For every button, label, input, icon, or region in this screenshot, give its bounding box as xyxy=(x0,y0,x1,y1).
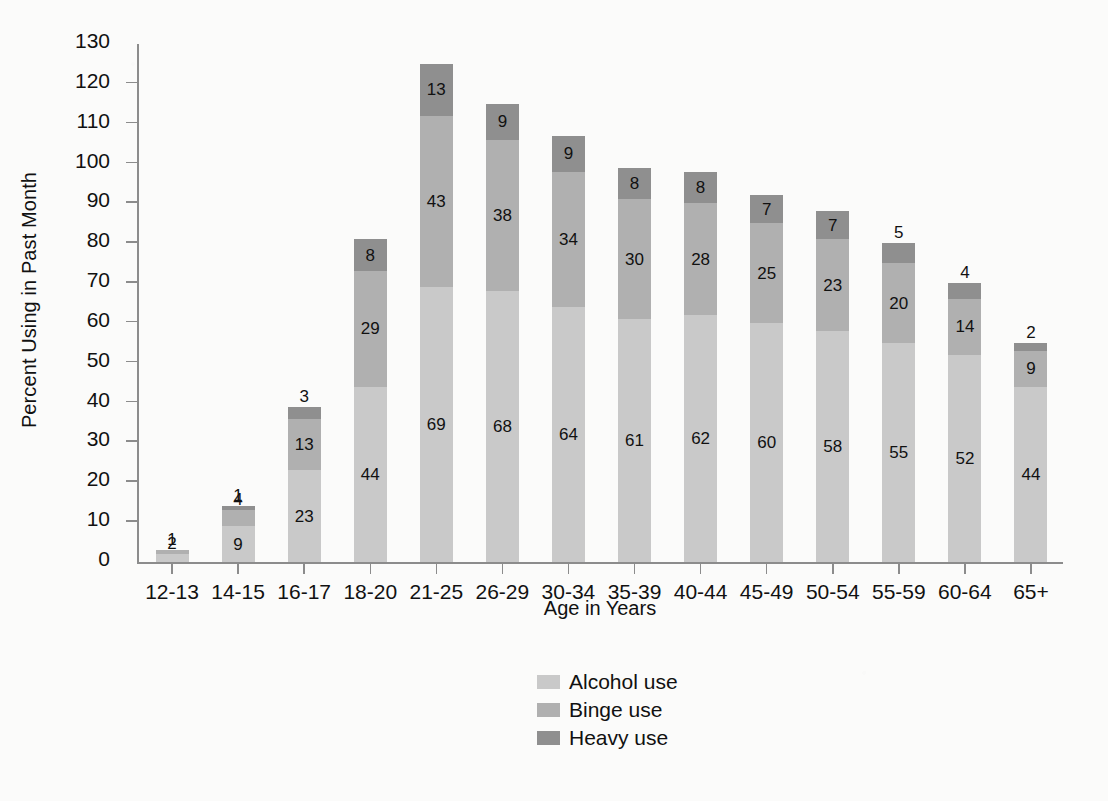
bar-segment[interactable]: 44 xyxy=(354,387,387,562)
bar-segment[interactable]: 7 xyxy=(816,211,849,239)
chart-canvas: Percent Using in Past Month 010203040506… xyxy=(0,0,1108,801)
stacked-bar[interactable]: 64349 xyxy=(552,136,585,562)
bar-segment-value-label: 69 xyxy=(427,416,446,433)
y-axis-tick: 90 xyxy=(11,201,137,203)
bar-segment[interactable]: 1 xyxy=(156,550,189,554)
bar-segment[interactable]: 20 xyxy=(882,263,915,343)
bar-segment-value-label: 13 xyxy=(295,436,314,453)
y-axis-tick-mark xyxy=(126,361,137,363)
bar-segment[interactable]: 28 xyxy=(684,203,717,315)
stacked-bar[interactable]: 58237 xyxy=(816,211,849,562)
bar-segment[interactable]: 60 xyxy=(750,323,783,562)
y-axis-tick-label: 20 xyxy=(87,467,110,491)
stacked-bar[interactable]: 68389 xyxy=(486,104,519,562)
bar-segment[interactable]: 58 xyxy=(816,331,849,562)
bar-segment[interactable]: 64 xyxy=(552,307,585,562)
legend-item[interactable]: Heavy use xyxy=(537,724,678,752)
bar-segment[interactable]: 61 xyxy=(618,319,651,562)
legend-item-label: Alcohol use xyxy=(569,670,678,694)
y-axis-line xyxy=(137,44,139,563)
bar-segment[interactable]: 44 xyxy=(1014,387,1047,562)
legend-item[interactable]: Binge use xyxy=(537,696,678,724)
y-axis-tick-label: 100 xyxy=(75,149,110,173)
y-axis-tick-mark xyxy=(126,281,137,283)
bar-segment[interactable]: 38 xyxy=(486,140,519,291)
bar-segment-value-label: 20 xyxy=(889,295,908,312)
y-axis-tick-mark xyxy=(126,440,137,442)
y-axis-tick: 130 xyxy=(11,42,137,44)
bar-segment-value-label: 61 xyxy=(625,432,644,449)
bar-segment[interactable]: 8 xyxy=(684,172,717,204)
bar-segment[interactable]: 14 xyxy=(948,299,981,355)
bar-segment[interactable]: 4 xyxy=(948,283,981,299)
bar-segment-value-label: 29 xyxy=(361,320,380,337)
bar-segment[interactable]: 29 xyxy=(354,271,387,387)
bar-segment-value-label: 62 xyxy=(691,430,710,447)
bar-segment-value-label: 60 xyxy=(757,434,776,451)
legend-swatch xyxy=(537,703,560,717)
bar-segment[interactable]: 7 xyxy=(750,195,783,223)
bar-segment[interactable]: 4 xyxy=(222,510,255,526)
bar-segment[interactable]: 43 xyxy=(420,116,453,287)
bar-segment[interactable]: 1 xyxy=(222,506,255,510)
bar-segment-value-label: 9 xyxy=(498,113,507,130)
bar-segment-value-label: 3 xyxy=(288,388,321,405)
bar-segment[interactable]: 69 xyxy=(420,287,453,562)
x-axis-title: Age in Years xyxy=(137,597,1063,620)
y-axis-tick: 120 xyxy=(11,82,137,84)
y-axis-tick-mark xyxy=(126,82,137,84)
bar-segment[interactable]: 52 xyxy=(948,355,981,562)
bar-segment[interactable]: 9 xyxy=(1014,351,1047,387)
bar-segment[interactable]: 55 xyxy=(882,343,915,562)
bar-segment[interactable]: 23 xyxy=(816,239,849,331)
stacked-bar[interactable]: 23133 xyxy=(288,407,321,562)
stacked-bar[interactable]: 55205 xyxy=(882,243,915,562)
x-axis-tick-mark xyxy=(898,563,900,574)
stacked-bar[interactable]: 60257 xyxy=(750,195,783,562)
stacked-bar[interactable]: 941 xyxy=(222,506,255,562)
y-axis-tick: 80 xyxy=(11,241,137,243)
bar-segment-value-label: 25 xyxy=(757,265,776,282)
bar-segment[interactable]: 3 xyxy=(288,407,321,419)
bar-segment[interactable]: 62 xyxy=(684,315,717,562)
stacked-bar[interactable]: 62288 xyxy=(684,172,717,562)
y-axis-tick-label: 50 xyxy=(87,348,110,372)
bar-segment[interactable]: 68 xyxy=(486,291,519,562)
bar-segment-value-label: 8 xyxy=(696,179,705,196)
bar-segment[interactable]: 25 xyxy=(750,223,783,323)
stacked-bar[interactable]: 61308 xyxy=(618,168,651,562)
y-axis-tick: 40 xyxy=(11,401,137,403)
stacked-bar[interactable]: 694313 xyxy=(420,64,453,562)
x-axis-tick-mark xyxy=(237,563,239,574)
bar-segment-value-label: 2 xyxy=(1014,324,1047,341)
bar-segment[interactable]: 30 xyxy=(618,199,651,319)
bar-segment[interactable]: 5 xyxy=(882,243,915,263)
bar-segment[interactable]: 9 xyxy=(222,526,255,562)
bar-segment[interactable]: 13 xyxy=(420,64,453,116)
bar-segment-value-label: 28 xyxy=(691,251,710,268)
y-axis-tick: 110 xyxy=(11,122,137,124)
x-axis-tick-mark xyxy=(832,563,834,574)
bar-segment-value-label: 68 xyxy=(493,418,512,435)
x-axis-tick-mark xyxy=(370,563,372,574)
y-axis-tick-mark xyxy=(126,520,137,522)
stacked-bar[interactable]: 21 xyxy=(156,550,189,562)
stacked-bar[interactable]: 4492 xyxy=(1014,343,1047,562)
bar-segment-value-label: 64 xyxy=(559,426,578,443)
bar-segment[interactable]: 2 xyxy=(1014,343,1047,351)
legend-item[interactable]: Alcohol use xyxy=(537,668,678,696)
y-axis-tick-label: 60 xyxy=(87,308,110,332)
bar-segment[interactable]: 23 xyxy=(288,470,321,562)
bar-segment-value-label: 58 xyxy=(823,438,842,455)
bar-segment-value-label: 5 xyxy=(882,224,915,241)
stacked-bar[interactable]: 52144 xyxy=(948,283,981,562)
bar-segment[interactable]: 8 xyxy=(354,239,387,271)
bar-segment[interactable]: 9 xyxy=(486,104,519,140)
bar-segment[interactable]: 9 xyxy=(552,136,585,172)
bar-segment[interactable]: 8 xyxy=(618,168,651,200)
stacked-bar[interactable]: 44298 xyxy=(354,239,387,562)
bar-segment[interactable]: 34 xyxy=(552,172,585,307)
bar-segment[interactable]: 13 xyxy=(288,419,321,471)
bar-segment[interactable]: 2 xyxy=(156,554,189,562)
y-axis-tick: 70 xyxy=(11,281,137,283)
